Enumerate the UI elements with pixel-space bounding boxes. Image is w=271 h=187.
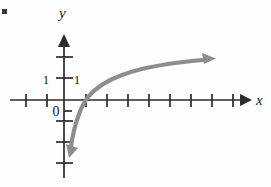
logarithmic-curve: [71, 60, 209, 151]
origin-label: 0: [53, 104, 60, 119]
bullet-marker-icon: [2, 9, 7, 14]
y-tick-label-1: 1: [43, 72, 50, 87]
x-axis-arrow-icon: [240, 94, 252, 106]
curve-down-arrow-icon: [66, 144, 78, 158]
coordinate-plot: y x 1 1 0: [0, 0, 271, 187]
y-axis-arrow-icon: [58, 34, 70, 47]
y-axis-label: y: [57, 5, 66, 21]
graph-figure: y x 1 1 0: [0, 0, 271, 187]
x-axis-label: x: [255, 92, 263, 108]
curve-right-arrow-icon: [202, 53, 216, 64]
x-tick-label-1: 1: [74, 72, 81, 87]
